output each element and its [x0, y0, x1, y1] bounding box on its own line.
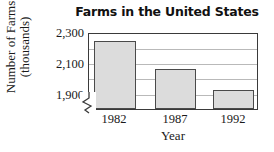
- bar-1982[interactable]: [94, 41, 136, 109]
- y-axis-tick-labels: 2,300 2,100 1,900: [36, 0, 84, 152]
- y-tick-label-2300: 2,300: [36, 26, 84, 41]
- x-tick-label-1987: 1987: [145, 112, 205, 127]
- bar-1992[interactable]: [213, 90, 254, 109]
- axis-break-icon: [80, 92, 96, 114]
- bar-1987[interactable]: [155, 69, 196, 109]
- x-tick-label-1992: 1992: [203, 112, 263, 127]
- y-tick-label-1900: 1,900: [36, 88, 84, 103]
- y-axis-title-line-1: Number of Farms: [4, 1, 18, 93]
- chart-title: Farms in the United States: [62, 4, 272, 19]
- x-axis-title: Year: [88, 128, 258, 144]
- bar-chart-figure: Farms in the United States Number of Far…: [0, 0, 274, 152]
- y-axis-title: Number of Farms (thousands): [0, 0, 36, 107]
- x-axis-tick-labels: 1982 1987 1992: [88, 112, 258, 128]
- plot-area: [88, 33, 258, 110]
- y-axis-title-line-2: (thousands): [18, 17, 32, 78]
- y-tick-label-2100: 2,100: [36, 57, 84, 72]
- x-tick-label-1982: 1982: [84, 112, 144, 127]
